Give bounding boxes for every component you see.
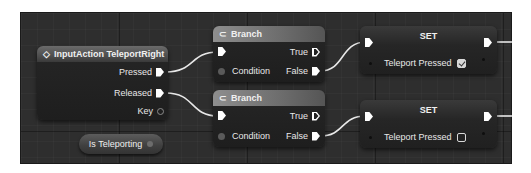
- branch-true-out[interactable]: True: [290, 111, 320, 121]
- branch-icon: ⊂: [219, 29, 227, 39]
- set-variable-label: Teleport Pressed: [384, 132, 452, 142]
- pin-label-condition: Condition: [232, 131, 270, 141]
- branch-node-1[interactable]: ⊂ Branch True Condition False: [213, 26, 325, 82]
- exec-pin-icon[interactable]: [312, 67, 320, 76]
- set-title: SET: [360, 31, 497, 41]
- pin-label-true: True: [290, 111, 308, 121]
- exec-pin-icon[interactable]: [156, 68, 164, 77]
- branch-exec-in[interactable]: [218, 111, 226, 120]
- branch-condition-in[interactable]: Condition: [218, 66, 270, 76]
- exec-pin-icon[interactable]: [156, 89, 164, 98]
- set-exec-in[interactable]: [365, 112, 373, 121]
- branch-header[interactable]: ⊂ Branch: [213, 26, 325, 42]
- bool-input-pin-icon[interactable]: [369, 136, 372, 139]
- set-value-out[interactable]: [482, 132, 485, 135]
- pin-label-released: Released: [114, 88, 152, 98]
- branch-false-out[interactable]: False: [286, 131, 320, 141]
- set-value-in[interactable]: Teleport Pressed: [369, 58, 466, 68]
- set-value-out[interactable]: [482, 58, 485, 61]
- set-variable-label: Teleport Pressed: [384, 58, 452, 68]
- branch-header[interactable]: ⊂ Branch: [213, 90, 325, 106]
- branch-true-out[interactable]: True: [290, 47, 320, 57]
- exec-pin-icon[interactable]: [365, 112, 373, 121]
- set-exec-in[interactable]: [365, 38, 373, 47]
- teleport-pressed-checkbox[interactable]: [457, 133, 466, 142]
- pin-label-true: True: [290, 47, 308, 57]
- pin-label-false: False: [286, 131, 308, 141]
- pin-label-false: False: [286, 66, 308, 76]
- bool-pin-icon[interactable]: [218, 68, 225, 75]
- exec-pin-icon[interactable]: [218, 111, 226, 120]
- pin-key[interactable]: Key: [137, 106, 164, 116]
- branch-title: Branch: [231, 93, 262, 103]
- set-node-2[interactable]: SET Teleport Pressed: [360, 100, 497, 148]
- data-pin-ring-icon[interactable]: [157, 108, 164, 115]
- bool-output-pin-icon[interactable]: [482, 132, 485, 135]
- exec-pin-icon[interactable]: [365, 38, 373, 47]
- pin-pressed[interactable]: Pressed: [119, 67, 164, 77]
- set-value-in[interactable]: Teleport Pressed: [369, 132, 466, 142]
- set-exec-out[interactable]: [484, 112, 492, 121]
- exec-pin-icon[interactable]: [312, 132, 320, 141]
- pin-label-condition: Condition: [232, 66, 270, 76]
- exec-pin-icon[interactable]: [218, 47, 226, 56]
- branch-node-2[interactable]: ⊂ Branch True Condition False: [213, 90, 325, 147]
- is-teleporting-getter-node[interactable]: Is Teleporting: [79, 134, 163, 154]
- pin-label-pressed: Pressed: [119, 67, 152, 77]
- bool-input-pin-icon[interactable]: [369, 62, 372, 65]
- input-action-header[interactable]: ◇ InputAction TeleportRight: [37, 46, 168, 62]
- branch-condition-in[interactable]: Condition: [218, 131, 270, 141]
- set-node-1[interactable]: SET Teleport Pressed: [360, 26, 497, 74]
- is-teleporting-label: Is Teleporting: [89, 139, 142, 149]
- bool-output-pin-icon[interactable]: [482, 58, 485, 61]
- exec-pin-hollow-icon[interactable]: [312, 48, 320, 57]
- teleport-pressed-checkbox[interactable]: [457, 59, 466, 68]
- exec-pin-icon[interactable]: [484, 112, 492, 121]
- exec-pin-icon[interactable]: [484, 38, 492, 47]
- bool-pin-icon[interactable]: [218, 133, 225, 140]
- bool-output-pin-icon[interactable]: [147, 141, 153, 147]
- exec-pin-hollow-icon[interactable]: [312, 112, 320, 121]
- branch-exec-in[interactable]: [218, 47, 226, 56]
- set-title: SET: [360, 105, 497, 115]
- input-action-diamond-icon: ◇: [43, 49, 50, 59]
- branch-title: Branch: [231, 29, 262, 39]
- set-exec-out[interactable]: [484, 38, 492, 47]
- input-action-node[interactable]: ◇ InputAction TeleportRight Pressed Rele…: [37, 46, 168, 120]
- input-action-title: InputAction TeleportRight: [54, 49, 164, 59]
- branch-icon: ⊂: [219, 93, 227, 103]
- pin-released[interactable]: Released: [114, 88, 164, 98]
- branch-false-out[interactable]: False: [286, 66, 320, 76]
- pin-label-key: Key: [137, 106, 153, 116]
